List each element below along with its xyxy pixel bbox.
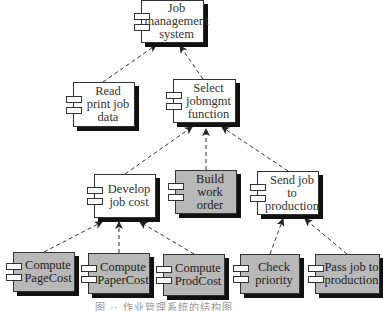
component-tab-icon xyxy=(168,183,184,190)
component-pass-job: Pass job to production xyxy=(315,254,380,294)
component-label: Send job to production xyxy=(265,174,319,213)
dependency-arrow-send_job-to-select_fn xyxy=(222,127,288,171)
component-paper-cost: Compute PaperCost xyxy=(88,253,150,294)
component-label: Develop job cost xyxy=(108,183,150,209)
component-tab-icon xyxy=(308,265,324,272)
component-label: Compute PaperCost xyxy=(97,261,148,287)
component-label: Compute ProdCost xyxy=(175,262,222,288)
component-tab-icon xyxy=(66,96,82,103)
component-label: Read print job data xyxy=(87,85,130,124)
component-tab-icon xyxy=(250,195,266,202)
component-tab-icon xyxy=(87,187,103,194)
component-tab-icon xyxy=(168,194,184,201)
component-label: Compute PageCost xyxy=(24,259,71,285)
component-read-print: Read print job data xyxy=(73,82,135,127)
component-send-job: Send job to production xyxy=(257,171,319,215)
component-tab-icon xyxy=(134,13,150,20)
dependency-arrow-pass_job-to-send_job xyxy=(305,219,347,254)
component-tab-icon xyxy=(87,198,103,205)
component-tab-icon xyxy=(166,92,182,99)
dependency-arrow-check_priority-to-send_job xyxy=(270,219,283,254)
component-label: Job management system xyxy=(145,2,209,41)
dependency-arrow-prod_cost-to-develop_cost xyxy=(140,222,194,254)
dependency-arrow-page_cost-to-develop_cost xyxy=(44,222,102,252)
component-build-order: Build work order xyxy=(175,170,237,214)
component-select-fn: Select jobmgmt function xyxy=(173,79,236,123)
figure-caption: 图 ·· 作业管理系统的结构图 xyxy=(95,299,295,311)
component-tab-icon xyxy=(233,276,249,283)
component-page-cost: Compute PageCost xyxy=(13,252,75,292)
component-tab-icon xyxy=(6,274,22,281)
component-check-priority: Check priority xyxy=(240,254,300,294)
component-develop-cost: Develop job cost xyxy=(94,174,156,218)
component-tab-icon xyxy=(233,265,249,272)
component-prod-cost: Compute ProdCost xyxy=(163,254,225,296)
component-label: Pass job to production xyxy=(324,261,378,287)
component-tab-icon xyxy=(250,184,266,191)
component-tab-icon xyxy=(156,266,172,273)
component-tab-icon xyxy=(156,277,172,284)
dependency-arrow-select_fn-to-job_mgmt xyxy=(180,46,203,79)
component-tab-icon xyxy=(308,276,324,283)
component-tab-icon xyxy=(166,103,182,110)
component-tab-icon xyxy=(6,263,22,270)
component-label: Select jobmgmt function xyxy=(186,82,231,121)
dependency-arrow-develop_cost-to-select_fn xyxy=(125,127,192,174)
component-tab-icon xyxy=(81,265,97,272)
component-tab-icon xyxy=(66,107,82,114)
component-tab-icon xyxy=(81,276,97,283)
component-label: Build work order xyxy=(184,173,236,212)
component-job-mgmt: Job management system xyxy=(141,0,204,43)
dependency-arrow-read_print-to-job_mgmt xyxy=(103,45,156,82)
component-tab-icon xyxy=(134,24,150,31)
component-label: Check priority xyxy=(255,261,293,287)
